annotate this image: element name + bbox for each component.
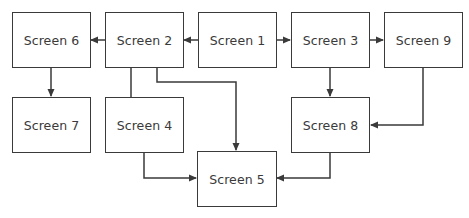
node-label: Screen 2 xyxy=(117,33,173,48)
node-screen-9: Screen 9 xyxy=(384,12,463,68)
node-label: Screen 1 xyxy=(210,33,266,48)
node-screen-7: Screen 7 xyxy=(12,97,91,153)
node-screen-3: Screen 3 xyxy=(291,12,370,68)
node-label: Screen 9 xyxy=(396,33,452,48)
edge-screen8-to-screen5 xyxy=(277,152,330,178)
node-screen-8: Screen 8 xyxy=(291,97,370,153)
edge-screen4-to-screen5 xyxy=(144,152,196,178)
edge-screen9-to-screen8 xyxy=(371,68,423,125)
node-label: Screen 7 xyxy=(24,118,80,133)
node-screen-4: Screen 4 xyxy=(105,97,184,153)
node-screen-5: Screen 5 xyxy=(197,151,277,207)
node-screen-2: Screen 2 xyxy=(105,12,184,68)
node-screen-1: Screen 1 xyxy=(198,12,277,68)
node-label: Screen 3 xyxy=(303,33,359,48)
flow-diagram: Screen 6 Screen 2 Screen 1 Screen 3 Scre… xyxy=(0,0,469,218)
node-screen-6: Screen 6 xyxy=(12,12,91,68)
node-label: Screen 6 xyxy=(24,33,80,48)
node-label: Screen 4 xyxy=(117,118,173,133)
node-label: Screen 8 xyxy=(303,118,359,133)
node-label: Screen 5 xyxy=(209,172,265,187)
